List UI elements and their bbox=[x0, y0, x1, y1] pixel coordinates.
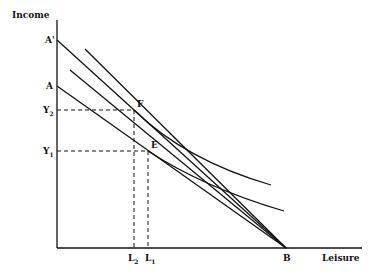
x-tick-L2: L2 bbox=[128, 254, 139, 265]
income-leisure-diagram bbox=[0, 0, 382, 277]
x-axis-label: Leisure bbox=[322, 254, 360, 263]
budget-line-steep-2 bbox=[70, 70, 286, 248]
y-tick-Y1: Y1 bbox=[43, 147, 54, 158]
y-tick-Y2: Y2 bbox=[43, 106, 54, 117]
y-axis-label: Income bbox=[12, 11, 50, 20]
x-tick-L1: L1 bbox=[145, 254, 156, 265]
point-label-E: E bbox=[151, 141, 158, 150]
indifference-curve-lower bbox=[148, 151, 284, 211]
budget-line-A-B bbox=[57, 86, 286, 248]
point-label-F: F bbox=[137, 100, 143, 109]
point-label-B: B bbox=[283, 254, 291, 263]
budget-line-A-prime-B bbox=[57, 40, 286, 248]
point-label-A-prime: A' bbox=[45, 36, 55, 45]
point-label-A: A bbox=[46, 82, 53, 91]
